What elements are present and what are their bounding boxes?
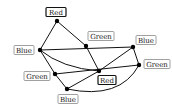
edge-n4-n5	[133, 47, 139, 65]
edge-n8-n6	[67, 71, 99, 89]
node-label: Red	[49, 9, 63, 17]
node-dot	[97, 69, 101, 73]
edge-n2-n7	[40, 50, 55, 74]
node-label: Blue	[60, 96, 76, 104]
node-dot	[137, 63, 141, 67]
edge-n7-n8	[55, 74, 67, 89]
edge-n1-n2	[40, 21, 57, 50]
node-label: Green	[146, 61, 168, 69]
node-dot	[38, 48, 42, 52]
node-label: Green	[26, 73, 48, 81]
nodes: RedBlueGreenBlueGreenRedGreenBlue	[14, 8, 170, 104]
node-dot	[131, 45, 135, 49]
node-dot	[65, 87, 69, 91]
node-label: Blue	[16, 47, 32, 55]
node-label: Red	[100, 77, 114, 85]
node-label: Blue	[138, 37, 154, 45]
graph-diagram: RedBlueGreenBlueGreenRedGreenBlue	[0, 0, 172, 109]
edge-n1-n3	[57, 21, 86, 46]
edge-n3-n6	[86, 46, 99, 71]
node-dot	[84, 44, 88, 48]
node-dot	[53, 72, 57, 76]
node-dot	[55, 19, 59, 23]
node-label: Green	[90, 33, 112, 41]
